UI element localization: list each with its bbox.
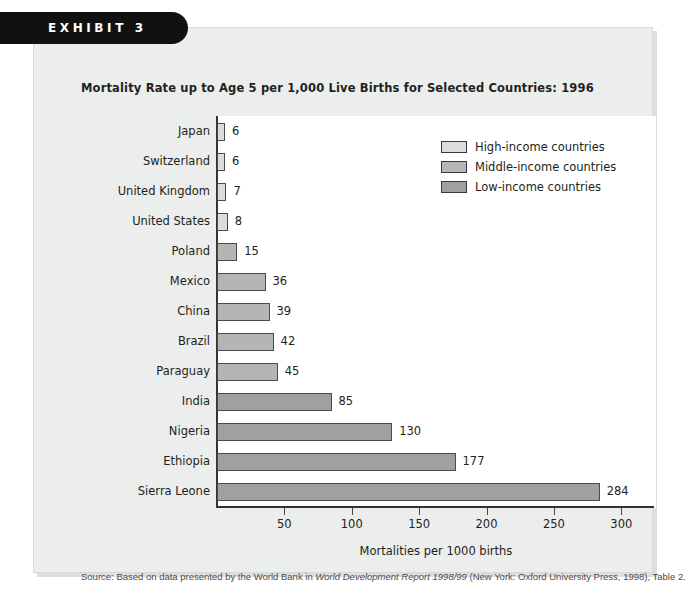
- legend-item: Low-income countries: [441, 176, 616, 196]
- bar-value-label: 177: [463, 454, 485, 468]
- x-tick-label: 300: [610, 517, 632, 531]
- bar-value-label: 7: [233, 184, 240, 198]
- bar-value-label: 15: [244, 244, 259, 258]
- x-tick-mark: [554, 508, 555, 515]
- bar: [217, 273, 266, 291]
- x-axis-title: Mortalities per 1000 births: [216, 544, 656, 558]
- bar-category-label: Nigeria: [10, 424, 210, 438]
- bar-row: Paraguay45: [81, 357, 673, 387]
- bar-category-label: China: [10, 304, 210, 318]
- x-tick-label: 50: [277, 517, 292, 531]
- bar-row: Ethiopia177: [81, 447, 673, 477]
- x-tick-mark: [621, 508, 622, 515]
- bar-row: Nigeria130: [81, 417, 673, 447]
- legend-label: Low-income countries: [475, 180, 601, 194]
- bar-category-label: United Kingdom: [10, 184, 210, 198]
- bar: [217, 483, 600, 501]
- bar-value-label: 6: [232, 124, 239, 138]
- bar-value-label: 6: [232, 154, 239, 168]
- bar: [217, 423, 392, 441]
- bar: [217, 453, 456, 471]
- legend-label: High-income countries: [475, 140, 605, 154]
- bar: [217, 243, 237, 261]
- source-note: Source: Based on data presented by the W…: [81, 571, 686, 582]
- bar-category-label: Japan: [10, 124, 210, 138]
- bar-row: Brazil42: [81, 327, 673, 357]
- exhibit-banner-label: EXHIBIT 3: [48, 21, 147, 35]
- bar-category-label: United States: [10, 214, 210, 228]
- exhibit-banner: EXHIBIT 3: [0, 12, 188, 44]
- bar-row: China39: [81, 297, 673, 327]
- source-italic-title: World Development Report 1998/99: [315, 571, 467, 582]
- bar-category-label: India: [10, 394, 210, 408]
- bar-category-label: Paraguay: [10, 364, 210, 378]
- legend-item: High-income countries: [441, 136, 616, 156]
- exhibit-panel: Mortality Rate up to Age 5 per 1,000 Liv…: [33, 27, 653, 573]
- source-suffix: (New York: Oxford University Press, 1998…: [467, 571, 686, 582]
- bar: [217, 153, 225, 171]
- bar-value-label: 39: [277, 304, 292, 318]
- bar-row: Sierra Leone284: [81, 477, 673, 507]
- bar: [217, 303, 270, 321]
- bar: [217, 363, 278, 381]
- x-tick-mark: [487, 508, 488, 515]
- bar-row: India85: [81, 387, 673, 417]
- bar: [217, 213, 228, 231]
- bar-value-label: 8: [235, 214, 242, 228]
- bar: [217, 123, 225, 141]
- chart-title: Mortality Rate up to Age 5 per 1,000 Liv…: [81, 81, 594, 95]
- legend-swatch: [441, 161, 467, 173]
- x-tick-mark: [284, 508, 285, 515]
- chart-plot-area: Japan6Switzerland6United Kingdom7United …: [81, 116, 673, 516]
- bar-category-label: Sierra Leone: [10, 484, 210, 498]
- bar-category-label: Brazil: [10, 334, 210, 348]
- legend-swatch: [441, 181, 467, 193]
- bar-row: Mexico36: [81, 267, 673, 297]
- legend-swatch: [441, 141, 467, 153]
- x-tick-label: 100: [341, 517, 363, 531]
- legend-item: Middle-income countries: [441, 156, 616, 176]
- bar-row: United States8: [81, 207, 673, 237]
- x-tick-label: 250: [543, 517, 565, 531]
- bar-value-label: 130: [399, 424, 421, 438]
- bar-value-label: 42: [281, 334, 296, 348]
- bar: [217, 183, 226, 201]
- bar-category-label: Switzerland: [10, 154, 210, 168]
- bar: [217, 333, 274, 351]
- x-tick-mark: [419, 508, 420, 515]
- legend-label: Middle-income countries: [475, 160, 616, 174]
- bar-value-label: 284: [607, 484, 629, 498]
- source-prefix: Source: Based on data presented by the W…: [81, 571, 315, 582]
- x-tick-mark: [352, 508, 353, 515]
- chart-legend: High-income countriesMiddle-income count…: [441, 136, 616, 196]
- bar-category-label: Poland: [10, 244, 210, 258]
- bar: [217, 393, 332, 411]
- bar-category-label: Ethiopia: [10, 454, 210, 468]
- x-tick-label: 200: [476, 517, 498, 531]
- bar-value-label: 85: [339, 394, 354, 408]
- bar-category-label: Mexico: [10, 274, 210, 288]
- bar-row: Poland15: [81, 237, 673, 267]
- bar-value-label: 36: [273, 274, 288, 288]
- bar-value-label: 45: [285, 364, 300, 378]
- x-tick-label: 150: [408, 517, 430, 531]
